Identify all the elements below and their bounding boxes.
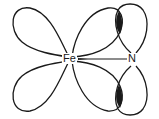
- fe-d-lobe-upper-left: [13, 8, 69, 57]
- fe-d-lobe-lower-right: [72, 61, 122, 111]
- atom-label-n: N: [127, 53, 137, 64]
- atom-label-fe: Fe: [62, 53, 77, 64]
- fe-d-lobe-upper-right: [72, 8, 122, 57]
- fe-d-lobe-lower-left: [13, 61, 69, 111]
